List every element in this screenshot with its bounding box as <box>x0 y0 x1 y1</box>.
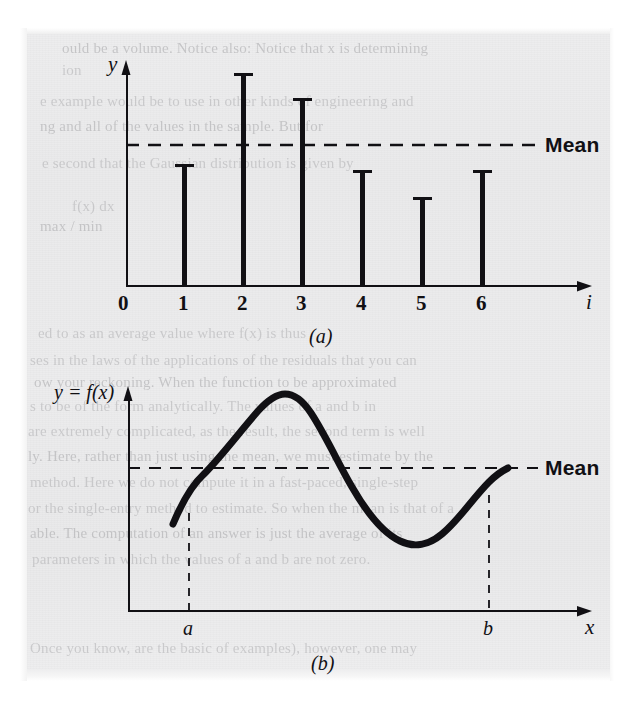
panel-b-mean-label: Mean <box>545 456 599 480</box>
panel-b-y-axis-label: y = f(x) <box>54 381 114 404</box>
panel-b-caption: (b) <box>311 652 334 675</box>
panel-b-tick-label-a: a <box>183 617 193 640</box>
scanned-page: ould be a volume. Notice also: Notice th… <box>0 0 637 709</box>
panel-b-curve <box>0 0 637 709</box>
panel-b: y = f(x) x a b Mean (b) <box>0 0 637 709</box>
panel-b-x-axis-label: x <box>585 615 594 640</box>
panel-b-tick-label-b: b <box>483 617 493 640</box>
